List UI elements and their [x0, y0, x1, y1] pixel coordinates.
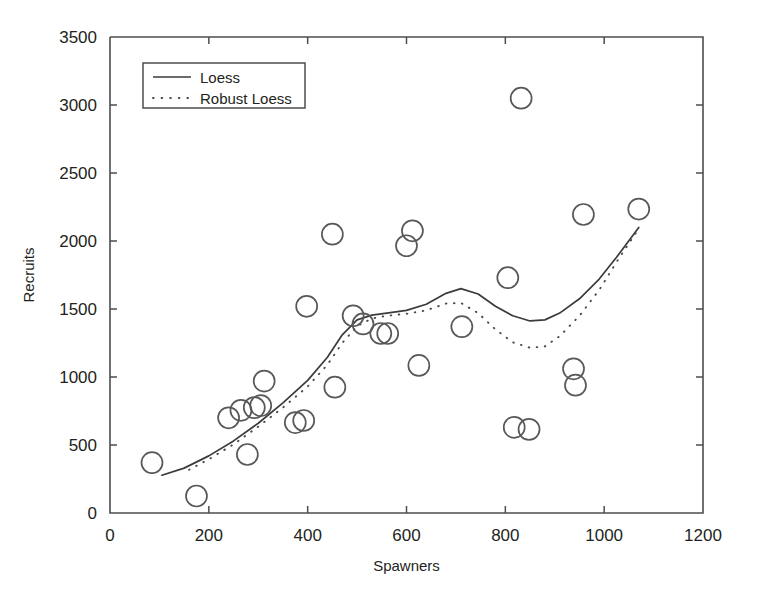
data-point-marker: [237, 444, 258, 465]
x-tick-label: 1200: [684, 526, 722, 545]
y-tick-label: 3500: [59, 28, 97, 47]
data-point-marker: [186, 486, 207, 507]
data-points: [142, 88, 650, 507]
legend-label: Loess: [200, 69, 240, 86]
x-tick-label: 1000: [585, 526, 623, 545]
y-tick-label: 2000: [59, 232, 97, 251]
data-point-marker: [497, 267, 518, 288]
data-point-marker: [254, 371, 275, 392]
data-point-marker: [296, 296, 317, 317]
x-tick-label: 0: [105, 526, 114, 545]
data-point-marker: [402, 220, 423, 241]
data-point-marker: [519, 419, 540, 440]
x-tick-label: 400: [293, 526, 321, 545]
x-tick-label: 800: [491, 526, 519, 545]
x-tick-labels: 020040060080010001200: [105, 526, 722, 545]
legend-label: Robust Loess: [200, 90, 292, 107]
x-tick-label: 200: [195, 526, 223, 545]
data-point-marker: [250, 395, 271, 416]
data-point-marker: [230, 400, 251, 421]
curve-robust-loess: [189, 229, 639, 470]
data-point-marker: [244, 397, 265, 418]
x-axis-title: Spawners: [373, 557, 440, 574]
data-point-marker: [451, 316, 472, 337]
data-point-marker: [565, 375, 586, 396]
y-axis-title: Recruits: [20, 247, 37, 302]
x-tick-label: 600: [392, 526, 420, 545]
y-tick-label: 0: [88, 504, 97, 523]
data-point-marker: [573, 204, 594, 225]
y-tick-labels: 0500100015002000250030003500: [59, 28, 97, 523]
y-tick-label: 1500: [59, 300, 97, 319]
curve-loess: [162, 227, 639, 475]
y-tick-label: 3000: [59, 96, 97, 115]
figure-container: 020040060080010001200 050010001500200025…: [0, 0, 760, 597]
smoothing-curves: [162, 227, 639, 475]
data-point-marker: [628, 199, 649, 220]
scatter-plot: 020040060080010001200 050010001500200025…: [0, 0, 760, 597]
data-point-marker: [504, 417, 525, 438]
data-point-marker: [218, 407, 239, 428]
data-point-marker: [322, 224, 343, 245]
data-point-marker: [142, 452, 163, 473]
data-point-marker: [324, 377, 345, 398]
data-point-marker: [408, 355, 429, 376]
y-tick-label: 2500: [59, 164, 97, 183]
data-point-marker: [396, 235, 417, 256]
legend: LoessRobust Loess: [143, 63, 305, 108]
data-point-marker: [511, 88, 532, 109]
y-tick-label: 500: [69, 436, 97, 455]
y-tick-label: 1000: [59, 368, 97, 387]
